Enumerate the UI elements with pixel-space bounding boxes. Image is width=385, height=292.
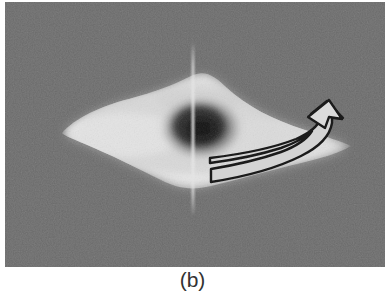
figure-container: (b) (0, 0, 385, 292)
figure-caption-row: (b) (0, 267, 385, 292)
figure-image-panel (5, 2, 385, 267)
figure-caption: (b) (180, 267, 206, 292)
figure-image (5, 2, 385, 267)
